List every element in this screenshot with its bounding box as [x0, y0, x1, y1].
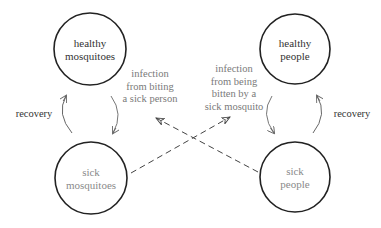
sick-mosquitoes-label: sick mosquitoes: [66, 166, 116, 192]
healthy-people-label: healthy people: [279, 37, 311, 63]
healthy-mosquitoes-label: healthy mosquitoes: [65, 37, 115, 63]
mosquito-malaria-diagram: [0, 0, 381, 228]
sick-people-label: sick people: [280, 165, 309, 191]
people-infection-label: infection from being bitten by a sick mo…: [205, 63, 264, 113]
sick-people-line2: people: [280, 178, 309, 191]
healthy-mosquitoes-line1: healthy: [65, 37, 115, 50]
sick-people-line1: sick: [280, 165, 309, 178]
mosquito-infection-label: infection from biting a sick person: [123, 68, 178, 106]
healthy-people-line1: healthy: [279, 37, 311, 50]
mosquito-recovery-label: recovery: [16, 108, 53, 121]
sick-people-to-mosquito-dashed-arrow: [156, 118, 258, 172]
healthy-people-line2: people: [279, 50, 311, 63]
sick-mosquitoes-line2: mosquitoes: [66, 179, 116, 192]
people-infection-arrow: [266, 96, 274, 133]
people-recovery-label: recovery: [334, 108, 371, 121]
healthy-mosquitoes-line2: mosquitoes: [65, 50, 115, 63]
mosquito-recovery-arrow: [62, 96, 72, 133]
people-recovery-arrow: [313, 96, 322, 133]
sick-mosquito-to-people-dashed-arrow: [131, 117, 230, 173]
sick-mosquitoes-line1: sick: [66, 166, 116, 179]
mosquito-infection-arrow: [111, 96, 118, 133]
